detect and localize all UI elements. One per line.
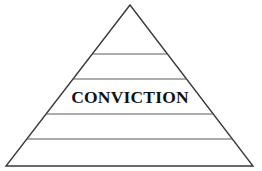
pyramid-figure: CONVICTION [0, 0, 262, 171]
pyramid-diagram: CONVICTION [0, 0, 262, 171]
band-label-conviction: CONVICTION [71, 87, 189, 107]
pyramid-outline-shape [6, 5, 253, 166]
